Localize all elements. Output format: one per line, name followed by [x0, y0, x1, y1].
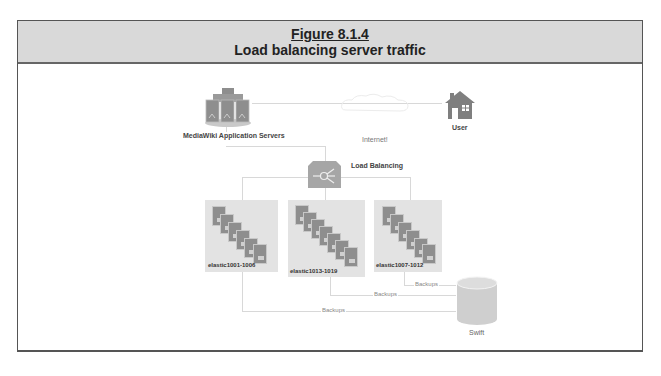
database-cylinder-icon: [455, 276, 499, 326]
user-label: User: [452, 124, 468, 131]
connector-lb-left: [242, 177, 308, 178]
connector-lb-mid-down: [325, 187, 326, 200]
internet-label: Internet!: [362, 136, 388, 143]
load-balancing-label: Load Balancing: [351, 162, 403, 169]
figure-title: Load balancing server traffic: [18, 42, 642, 59]
load-balancer-icon: [308, 161, 341, 188]
cluster-box-2: elastic1013-1019: [288, 200, 365, 277]
cluster-label-3: elastic1007-1012: [376, 262, 423, 268]
backup-line-mid-v: [330, 277, 331, 295]
cluster-box-1: elastic1001-1006: [205, 200, 278, 272]
swift-label: Swift: [469, 329, 484, 336]
figure-header: Figure 8.1.4 Load balancing server traff…: [18, 21, 642, 64]
cloud-icon: [338, 92, 412, 114]
cluster-label-1: elastic1001-1006: [208, 262, 255, 268]
connector-lb-right-down: [410, 177, 411, 200]
server-card-icon: [253, 244, 267, 264]
backup-label-2: Backups: [373, 291, 398, 297]
figure-number: Figure 8.1.4: [18, 26, 642, 42]
server-cluster-icon: [203, 86, 253, 128]
backup-label-3: Backups: [321, 307, 346, 313]
house-icon: [444, 90, 476, 120]
server-card-icon: [344, 247, 358, 267]
cluster-label-2: elastic1013-1019: [290, 268, 337, 274]
connector-lb-left-down: [242, 177, 243, 200]
backup-line-left-h: [242, 311, 456, 312]
connector-servers-lb-v: [325, 146, 326, 162]
server-card-icon: [422, 244, 436, 264]
app-servers-label: MediaWiki Application Servers: [183, 132, 285, 139]
backup-line-left-v: [242, 272, 243, 311]
connector-servers-lb-h: [226, 146, 326, 147]
backup-line-right-v: [404, 272, 405, 285]
connector-lb-right: [340, 177, 410, 178]
cluster-box-3: elastic1007-1012: [374, 200, 442, 272]
backup-label-1: Backups: [414, 281, 439, 287]
